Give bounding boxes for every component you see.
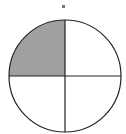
quarter-top-left bbox=[9, 20, 65, 76]
fraction-circle-chart bbox=[0, 0, 126, 134]
